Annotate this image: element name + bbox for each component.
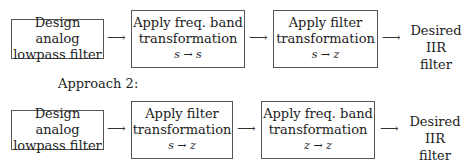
approach1-freq-band-box: Apply freq. band transformation s → s bbox=[131, 10, 245, 68]
arrow-icon: ⟶ bbox=[107, 30, 126, 46]
box-text-line1: Design analog bbox=[12, 106, 103, 138]
approach1-design-analog-box: Design analog lowpass filter bbox=[11, 19, 104, 59]
box-text-line2: transformation bbox=[276, 31, 375, 47]
output-line2: filter bbox=[402, 56, 470, 73]
mapping-formula: s → z bbox=[312, 47, 340, 63]
arrow-icon: ⟶ bbox=[382, 30, 401, 46]
approach1-output-label: Desired IIR filter bbox=[402, 22, 470, 73]
mapping-formula: z → z bbox=[304, 138, 332, 154]
box-text-line2: transformation bbox=[269, 122, 368, 138]
box-text-line1: Apply filter bbox=[145, 106, 219, 122]
approach2-design-analog-box: Design analog lowpass filter bbox=[11, 110, 104, 150]
arrow-icon: ⟶ bbox=[380, 121, 399, 137]
approach1-filter-transform-box: Apply filter transformation s → z bbox=[273, 10, 378, 68]
box-text-line1: Design analog bbox=[12, 15, 103, 47]
approach2-heading: Approach 2: bbox=[58, 76, 138, 92]
box-text-line1: Apply freq. band bbox=[263, 106, 373, 122]
box-text-line1: Apply freq. band bbox=[133, 15, 243, 31]
box-text-line2: lowpass filter bbox=[13, 138, 102, 154]
mapping-formula: s → z bbox=[168, 138, 196, 154]
output-line2: filter bbox=[400, 147, 470, 164]
arrow-icon: ⟶ bbox=[249, 30, 268, 46]
output-line1: Desired IIR bbox=[402, 22, 470, 56]
output-line1: Desired IIR bbox=[400, 113, 470, 147]
box-text-line1: Apply filter bbox=[289, 15, 363, 31]
box-text-line2: lowpass filter bbox=[13, 47, 102, 63]
approach2-output-label: Desired IIR filter bbox=[400, 113, 470, 164]
approach2-filter-transform-box: Apply filter transformation s → z bbox=[131, 101, 233, 159]
arrow-icon: ⟶ bbox=[107, 121, 126, 137]
box-text-line2: transformation bbox=[139, 31, 238, 47]
mapping-formula: s → s bbox=[174, 47, 202, 63]
box-text-line2: transformation bbox=[133, 122, 232, 138]
arrow-icon: ⟶ bbox=[237, 121, 256, 137]
approach2-freq-band-box: Apply freq. band transformation z → z bbox=[261, 101, 375, 159]
